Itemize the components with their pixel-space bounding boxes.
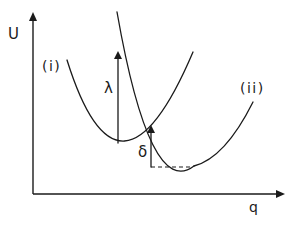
curve-ii-label: (ii) xyxy=(240,80,265,96)
curve-ii-left xyxy=(117,12,194,171)
x-axis-label: q xyxy=(249,199,258,215)
x-axis-arrow-icon xyxy=(276,190,285,198)
lambda-label: λ xyxy=(104,79,113,97)
delta-label: δ xyxy=(138,143,147,161)
lambda-arrowhead-icon xyxy=(114,51,122,59)
curve-ii-right xyxy=(194,102,253,166)
energy-diagram: U q (i) (ii) λ δ xyxy=(0,0,296,226)
y-axis-label: U xyxy=(8,25,19,43)
y-axis-arrow-icon xyxy=(29,12,37,21)
curve-i xyxy=(67,52,193,141)
curve-i-label: (i) xyxy=(42,58,61,74)
